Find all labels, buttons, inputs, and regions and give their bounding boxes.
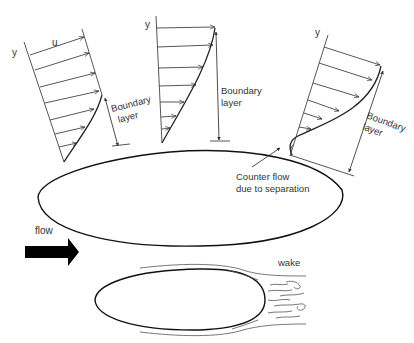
counter-flow-label-line1: Counter flow bbox=[236, 171, 289, 182]
y-axis-1 bbox=[24, 42, 64, 162]
lower-body-ellipse bbox=[95, 269, 265, 330]
velocity-profile-2: y Boundary layer bbox=[145, 16, 262, 143]
wake-label: wake bbox=[277, 257, 300, 268]
flow-arrow-icon bbox=[25, 238, 79, 266]
counter-flow-label-line2: due to separation bbox=[236, 183, 309, 194]
u-label: u bbox=[52, 37, 58, 48]
lower-body-with-wake: wake bbox=[95, 257, 306, 336]
bl-dimension-2 bbox=[216, 32, 219, 140]
velocity-profile-3: y Boundary layer bbox=[290, 27, 408, 176]
velocity-profile-1: y u Boundary layer bbox=[12, 29, 155, 162]
edge-line-1 bbox=[82, 29, 102, 95]
flow-indicator: flow bbox=[25, 225, 79, 266]
bl-label-2-line1: Boundary bbox=[221, 85, 262, 96]
upper-body bbox=[38, 151, 343, 247]
y-axis-label-3: y bbox=[315, 27, 320, 38]
profile-curve-3 bbox=[290, 66, 381, 155]
y-axis-2 bbox=[156, 16, 162, 143]
bl-label-2-line2: layer bbox=[221, 97, 242, 108]
profile-curve-1 bbox=[64, 95, 102, 162]
y-axis-label-1: y bbox=[12, 47, 17, 58]
boundary-layer-diagram: y u Boundary layer y Boundary layer bbox=[0, 0, 414, 343]
y-axis-label-2: y bbox=[145, 19, 150, 30]
body-ellipse bbox=[38, 151, 343, 247]
flow-label: flow bbox=[35, 225, 54, 236]
